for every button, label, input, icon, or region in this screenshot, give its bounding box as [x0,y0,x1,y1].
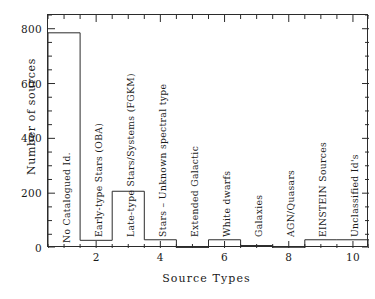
y-tick-label: 0 [4,242,42,254]
category-label: White dwarfs [221,171,232,237]
category-label: Unclassified Id's [349,154,360,237]
x-tick-label: 10 [338,251,368,263]
category-label: No Catalogued Id. [61,152,72,243]
x-tick-label: 8 [274,251,304,263]
plot-area: 0200400600800 246810 No Catalogued Id.Ea… [47,14,368,247]
y-tick-label: 800 [4,23,42,35]
y-axis-title: Number of sources [25,32,38,202]
category-label: EINSTEIN Sources [317,142,328,237]
x-tick-label: 4 [145,251,175,263]
x-tick-label: 2 [81,251,111,263]
category-label: Early-type Stars (OBA) [93,123,104,237]
x-tick-label: 6 [210,251,240,263]
category-label: Late-type Stars/Systems (FGKM) [125,73,136,237]
category-label: Stars – Unknown spectral type [157,84,168,237]
y-tick-label: 200 [4,187,42,199]
category-label: Extended Galactic [189,146,200,237]
y-tick-label: 400 [4,132,42,144]
category-label: Galaxies [253,195,264,237]
figure: Number of sources 0200400600800 246810 N… [0,0,375,299]
y-tick-label: 600 [4,78,42,90]
category-label: AGN/Quasars [285,170,296,237]
x-axis-title: Source Types [40,272,373,285]
